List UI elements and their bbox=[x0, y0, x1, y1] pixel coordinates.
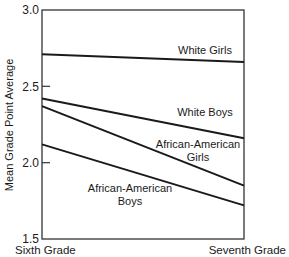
x-category-label: Seventh Grade bbox=[209, 244, 286, 256]
y-tick-label: 3.0 bbox=[22, 3, 39, 17]
series-label-aa-girls: Girls bbox=[187, 151, 210, 163]
series-label-aa-girls: African-American bbox=[156, 138, 240, 150]
series-labels: White Girls White Boys African-American … bbox=[88, 44, 240, 207]
y-tick-label: 2.0 bbox=[22, 156, 39, 170]
series-line-african-american-boys bbox=[42, 144, 244, 205]
x-category-label: Sixth Grade bbox=[15, 244, 76, 256]
series-label-aa-boys: Boys bbox=[118, 195, 143, 207]
series-label-white-girls: White Girls bbox=[178, 44, 232, 56]
y-axis-title: Mean Grade Point Average bbox=[3, 59, 15, 192]
line-chart: 3.0 2.5 2.0 1.5 Mean Grade Point Average… bbox=[0, 0, 289, 257]
y-tick-label: 2.5 bbox=[22, 80, 39, 94]
y-axis: 3.0 2.5 2.0 1.5 Mean Grade Point Average bbox=[3, 3, 50, 246]
series-label-white-boys: White Boys bbox=[177, 106, 233, 118]
series-label-aa-boys: African-American bbox=[88, 182, 172, 194]
